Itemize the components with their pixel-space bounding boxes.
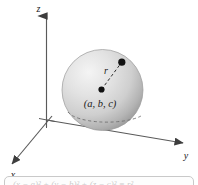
caption-box: (x − a)² + (y − b)² + (z − c)² = r² xyxy=(4,176,194,185)
sphere-diagram-canvas: z y x r (a, b, c) xyxy=(0,0,198,185)
y-axis-label: y xyxy=(183,150,189,161)
sphere-surface-point xyxy=(118,59,125,66)
sphere-figure: z y x r (a, b, c) (x − a)² + (y − b)² + … xyxy=(0,0,198,185)
sphere-equation-caption: (x − a)² + (y − b)² + (z − c)² = r² xyxy=(13,179,191,185)
z-axis-label: z xyxy=(36,3,41,14)
radius-label: r xyxy=(104,65,108,76)
sphere-center-label: (a, b, c) xyxy=(84,98,117,110)
sphere-center-point xyxy=(98,86,104,92)
